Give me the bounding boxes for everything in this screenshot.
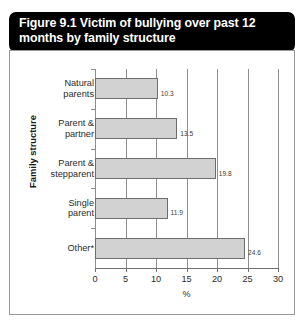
bar xyxy=(95,198,168,219)
gridline-x xyxy=(278,69,279,268)
chart-frame: Family structure NaturalparentsParent &p… xyxy=(9,50,295,315)
bar xyxy=(95,118,177,139)
figure-header: Figure 9.1 Victim of bullying over past … xyxy=(9,12,295,52)
x-axis-tick xyxy=(248,268,249,272)
x-axis-tick-label: 5 xyxy=(113,274,139,284)
y-axis-category-label: Naturalparents xyxy=(20,78,94,99)
y-axis-tick xyxy=(91,228,95,229)
bar xyxy=(95,158,216,179)
x-axis-tick xyxy=(156,268,157,272)
bar xyxy=(95,78,158,99)
x-axis-tick-label: 15 xyxy=(174,274,200,284)
x-axis-tick xyxy=(187,268,188,272)
y-axis-category-label-line: Natural xyxy=(20,78,94,89)
y-axis-tick xyxy=(91,69,95,70)
y-axis-category-label-line: parent xyxy=(20,208,94,219)
y-axis-category-label-line: partner xyxy=(20,129,94,140)
x-axis-tick-label: 20 xyxy=(204,274,230,284)
y-axis-category-label: Other* xyxy=(20,243,94,254)
x-axis-tick-label: 0 xyxy=(82,274,108,284)
x-axis-tick-label: 30 xyxy=(265,274,291,284)
y-axis-category-label: Singleparent xyxy=(20,198,94,219)
x-axis-tick-label: 25 xyxy=(235,274,261,284)
figure-title: Figure 9.1 Victim of bullying over past … xyxy=(19,16,286,46)
plot-area: % 05101520253010.313.519.811.924.6 xyxy=(95,69,278,268)
y-axis-category-label: Parent &stepparent xyxy=(20,158,94,179)
y-axis-tick xyxy=(91,149,95,150)
bar-value-label: 24.6 xyxy=(248,249,261,256)
y-axis-category-label-line: Parent & xyxy=(20,158,94,169)
bar-value-label: 19.8 xyxy=(219,170,232,177)
bar-value-label: 11.9 xyxy=(171,209,183,216)
x-axis-tick xyxy=(278,268,279,272)
figure-container: Figure 9.1 Victim of bullying over past … xyxy=(0,0,304,325)
y-axis-category-label-line: Other* xyxy=(20,243,94,254)
bar-value-label: 10.3 xyxy=(161,90,174,97)
gridline-x xyxy=(248,69,249,268)
y-axis-tick xyxy=(91,188,95,189)
y-axis-category-label-line: Single xyxy=(20,198,94,209)
x-axis-tick xyxy=(95,268,96,272)
x-axis-tick xyxy=(217,268,218,272)
y-axis-category-label-line: parents xyxy=(20,89,94,100)
y-axis-category-label: Parent &partner xyxy=(20,118,94,139)
y-axis-category-label-line: stepparent xyxy=(20,169,94,180)
y-axis-tick xyxy=(91,109,95,110)
x-axis-title: % xyxy=(95,289,278,299)
bar-value-label: 13.5 xyxy=(180,130,193,137)
y-axis-category-label-line: Parent & xyxy=(20,118,94,129)
bar xyxy=(95,238,245,259)
x-axis-tick xyxy=(126,268,127,272)
x-axis-tick-label: 10 xyxy=(143,274,169,284)
